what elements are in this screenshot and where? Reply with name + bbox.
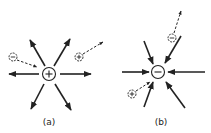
test-charge-negative-attracted <box>9 53 37 67</box>
central-charge-negative <box>152 66 165 79</box>
motion-arrow <box>136 82 150 91</box>
central-charge-positive <box>43 68 56 81</box>
motion-arrow <box>174 11 181 33</box>
field-arrow-down-left <box>31 84 44 109</box>
test-charge-negative-repelled <box>168 11 181 42</box>
electric-field-diagram: (a) (b) <box>0 0 211 133</box>
motion-arrow <box>17 60 37 67</box>
field-arrow-from-down-left <box>144 82 153 107</box>
field-arrow-down-right <box>55 84 71 110</box>
field-arrow-from-up-left <box>144 41 153 64</box>
panel-label-a: (a) <box>43 117 56 127</box>
motion-arrow <box>83 42 103 54</box>
test-charge-positive-attracted <box>128 82 150 98</box>
field-arrow-from-down-right <box>166 82 185 108</box>
test-charge-positive-repelled <box>75 42 103 61</box>
panel-b: (b) <box>122 11 205 127</box>
field-arrow-up-left <box>30 40 45 66</box>
panel-label-b: (b) <box>155 117 168 127</box>
field-arrow-up-right <box>54 39 70 66</box>
panel-a: (a) <box>9 39 103 127</box>
